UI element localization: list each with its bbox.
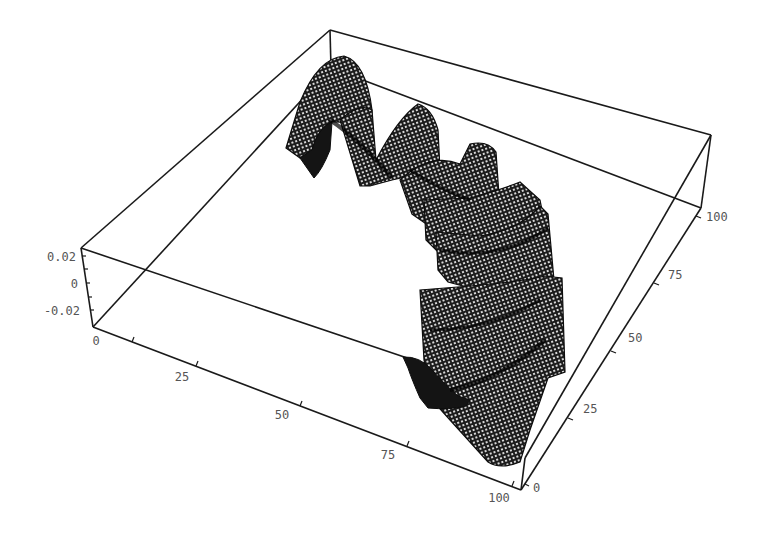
z-tick-label: -0.02 — [44, 304, 80, 318]
x-tick-label: 25 — [175, 370, 189, 384]
x-tick-label: 0 — [92, 334, 99, 348]
y-tick-label: 75 — [668, 268, 682, 282]
bounding-box — [81, 30, 711, 490]
y-tick-label: 50 — [628, 331, 642, 345]
y-tick-label: 0 — [533, 481, 540, 495]
z-tick-label: 0 — [71, 277, 78, 291]
y-tick-label: 25 — [583, 402, 597, 416]
x-tick-label: 75 — [381, 448, 395, 462]
x-tick-label: 50 — [275, 408, 289, 422]
y-tick-label: 100 — [706, 210, 728, 224]
surface-plot: 0.02 0 -0.02 0 25 50 75 100 0 25 50 75 1… — [0, 0, 768, 535]
surface-mesh — [286, 56, 565, 466]
box-edge-front-top — [81, 248, 431, 366]
z-tick-label: 0.02 — [47, 250, 76, 264]
x-tick-label: 100 — [488, 491, 510, 505]
